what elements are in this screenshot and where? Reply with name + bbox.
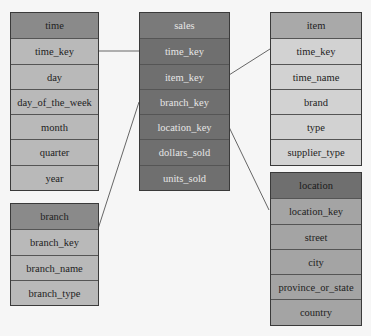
field: time_key xyxy=(11,38,98,63)
branch-table: branch branch_key branch_name branch_typ… xyxy=(10,203,99,306)
field: branch_key xyxy=(11,229,98,254)
link-sales-item xyxy=(229,49,270,75)
field: type xyxy=(271,114,361,139)
table-header: sales xyxy=(140,13,229,38)
field: item_key xyxy=(140,64,229,89)
time-table: time time_key day day_of_the_week month … xyxy=(10,12,99,191)
table-header: location xyxy=(271,173,361,198)
field: day xyxy=(11,64,98,89)
item-table: item time_key time_name brand type suppl… xyxy=(270,12,362,166)
field: supplier_type xyxy=(271,139,361,164)
table-header: item xyxy=(271,13,361,38)
field: units_sold xyxy=(140,165,229,190)
field: time_key xyxy=(271,38,361,63)
field: brand xyxy=(271,89,361,114)
link-sales-location xyxy=(229,127,269,210)
sales-table: sales time_key item_key branch_key locat… xyxy=(139,12,230,191)
location-table: location location_key street city provin… xyxy=(270,172,362,326)
field: quarter xyxy=(11,139,98,164)
field: location_key xyxy=(140,114,229,139)
field: day_of_the_week xyxy=(11,89,98,114)
field: year xyxy=(11,165,98,190)
table-header: branch xyxy=(11,204,98,229)
table-header: time xyxy=(11,13,98,38)
field: branch_name xyxy=(11,255,98,280)
field: country xyxy=(271,299,361,324)
field: branch_key xyxy=(140,89,229,114)
field: time_name xyxy=(271,64,361,89)
link-sales-branch xyxy=(98,102,139,229)
field: branch_type xyxy=(11,280,98,305)
field: month xyxy=(11,114,98,139)
field: location_key xyxy=(271,198,361,223)
field: street xyxy=(271,224,361,249)
field: time_key xyxy=(140,38,229,63)
field: city xyxy=(271,249,361,274)
field: province_or_state xyxy=(271,274,361,299)
field: dollars_sold xyxy=(140,139,229,164)
